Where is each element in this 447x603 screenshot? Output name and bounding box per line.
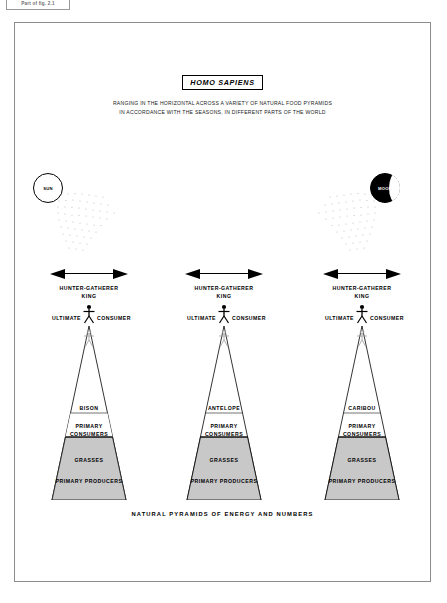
ultimate-label: ULTIMATE [325,315,354,321]
pyramid-column-caribou: HUNTER-GATHERER KING ULTIMATE CONSUMER [292,267,432,500]
consumer-label: CONSUMER [97,315,131,321]
king-line-1: HUNTER-GATHERER [154,285,294,293]
pyramid-column-antelope: HUNTER-GATHERER KING ULTIMATE CONSUMER [154,267,294,500]
hunter-gatherer-king-label: HUNTER-GATHERER KING [292,285,432,300]
arrow-shaft [60,273,118,274]
horizontal-ranging-arrow-icon [50,267,128,281]
king-line-2: KING [19,293,159,301]
arrow-shaft [333,273,391,274]
ultimate-consumer-row: ULTIMATE CONSUMER [19,304,159,326]
king-line-1: HUNTER-GATHERER [292,285,432,293]
king-line-1: HUNTER-GATHERER [19,285,159,293]
arrow-head-right-icon [248,269,263,279]
sun-rays-icon [55,191,133,253]
king-line-2: KING [292,293,432,301]
consumer-label: CONSUMER [370,315,404,321]
diagram-plate: HOMO SAPIENS RANGING IN THE HORIZONTAL A… [14,22,431,582]
hunter-gatherer-king-label: HUNTER-GATHERER KING [154,285,294,300]
page-title: HOMO SAPIENS [15,71,430,90]
figure-caption: NATURAL PYRAMIDS OF ENERGY AND NUMBERS [15,511,430,517]
horizontal-ranging-arrow-icon [185,267,263,281]
sun-icon: SUN [33,173,63,203]
moon-icon: MOON [370,173,400,203]
sun-label: SUN [43,186,53,191]
arrow-head-right-icon [113,269,128,279]
pyramid-caribou: CARIBOU PRIMARY CONSUMERS GRASSES PRIMAR… [292,324,432,500]
title-text: HOMO SAPIENS [182,75,262,90]
corner-figure-tag: Part of fig. 2.1 [6,0,70,10]
consumer-label: CONSUMER [232,315,266,321]
subtitle-line-1: RANGING IN THE HORIZONTAL ACROSS A VARIE… [15,99,430,108]
horizontal-ranging-arrow-icon [323,267,401,281]
ultimate-consumer-row: ULTIMATE CONSUMER [292,304,432,326]
pyramid-column-bison: HUNTER-GATHERER KING ULTIMATE CONSUMER [19,267,159,500]
subtitle: RANGING IN THE HORIZONTAL ACROSS A VARIE… [15,99,430,117]
pyramid-antelope: ANTELOPE PRIMARY CONSUMERS GRASSES PRIMA… [154,324,294,500]
arrow-shaft [195,273,253,274]
moon-rays-icon [300,191,378,253]
pyramid-bison: BISON PRIMARY CONSUMERS GRASSES PRIMARY … [19,324,159,500]
ultimate-label: ULTIMATE [52,315,81,321]
ultimate-label: ULTIMATE [187,315,216,321]
subtitle-line-2: IN ACCORDANCE WITH THE SEASONS, IN DIFFE… [15,108,430,117]
arrow-head-right-icon [386,269,401,279]
hunter-gatherer-king-label: HUNTER-GATHERER KING [19,285,159,300]
ultimate-consumer-row: ULTIMATE CONSUMER [154,304,294,326]
moon-label: MOON [378,186,392,191]
king-line-2: KING [154,293,294,301]
